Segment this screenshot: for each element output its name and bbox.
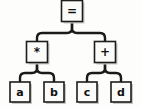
node-leaf-a-label: a (16, 86, 23, 99)
node-root-label: = (67, 4, 77, 18)
node-leaf-d-label: d (117, 86, 125, 99)
edge-root-to-multiply (37, 22, 72, 42)
node-leaf-b-label: b (50, 86, 58, 99)
node-leaf-d[interactable]: d (111, 82, 133, 104)
node-multiply[interactable]: * (27, 42, 50, 65)
node-plus-label: + (100, 45, 110, 59)
node-leaf-c-label: c (84, 86, 91, 99)
edge-root-to-plus (72, 22, 105, 42)
node-leaf-b[interactable]: b (44, 82, 66, 104)
edge-multiply-to-a (20, 62, 37, 82)
node-root-equals[interactable]: = (62, 1, 85, 24)
node-leaf-c[interactable]: c (77, 82, 99, 104)
expression-tree-diagram: = * + a b c (0, 0, 141, 107)
node-multiply-label: * (34, 45, 41, 59)
edge-plus-to-c (87, 62, 105, 82)
tree-canvas: = * + a b c (0, 0, 141, 107)
edge-multiply-to-b (37, 62, 54, 82)
node-plus[interactable]: + (95, 42, 118, 65)
edge-plus-to-d (105, 62, 121, 82)
node-leaf-a[interactable]: a (10, 82, 32, 104)
